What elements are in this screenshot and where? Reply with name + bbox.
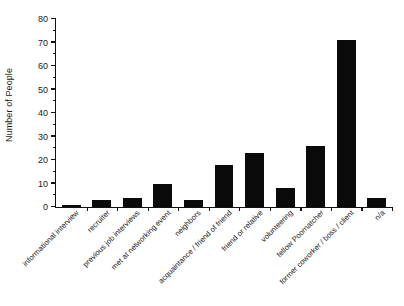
y-tick-label: 40	[38, 109, 48, 118]
bar[interactable]	[184, 200, 203, 207]
bar-series	[56, 19, 392, 207]
y-axis-title: Number of People	[0, 0, 18, 210]
y-tick-label: 70	[38, 38, 48, 47]
bar-chart: Number of People 01020304050607080 infor…	[0, 0, 404, 306]
bar[interactable]	[153, 184, 172, 208]
y-axis-title-text: Number of People	[4, 68, 14, 142]
y-tick-label: 30	[38, 132, 48, 141]
x-axis-label: informational interview	[22, 209, 81, 268]
bar[interactable]	[367, 198, 386, 207]
y-tick-label: 10	[38, 179, 48, 188]
bar[interactable]	[337, 40, 356, 207]
x-axis-label: previous job interviews	[82, 209, 142, 269]
y-tick-label: 80	[38, 15, 48, 24]
x-axis-label: n/a	[373, 209, 386, 222]
y-tick-label: 50	[38, 85, 48, 94]
x-axis-label: neighbors	[174, 209, 203, 238]
x-axis-label: recruiter	[86, 209, 111, 234]
y-tick-label: 20	[38, 156, 48, 165]
plot-area: 01020304050607080	[56, 19, 392, 207]
y-tick-label: 60	[38, 62, 48, 71]
bar[interactable]	[62, 205, 81, 207]
bar[interactable]	[123, 198, 142, 207]
bar[interactable]	[92, 200, 111, 207]
bar[interactable]	[276, 188, 295, 207]
x-tick	[392, 207, 393, 211]
bar[interactable]	[306, 146, 325, 207]
x-axis-labels: informational interviewrecruiterprevious…	[56, 209, 392, 306]
bar[interactable]	[215, 165, 234, 207]
x-axis-label: met at networking event	[110, 209, 172, 271]
bar[interactable]	[245, 153, 264, 207]
y-tick-label: 0	[43, 203, 48, 212]
